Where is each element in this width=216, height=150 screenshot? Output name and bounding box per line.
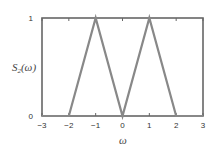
x-tick-label: 0	[120, 121, 125, 130]
plot-frame	[42, 18, 203, 116]
x-tick-label: 2	[174, 121, 179, 130]
x-tick-label: 1	[147, 121, 152, 130]
x-tick-label: −3	[37, 121, 47, 130]
x-tick-label: −1	[91, 121, 101, 130]
series	[42, 18, 203, 116]
x-tick-label: −2	[64, 121, 74, 130]
chart: −3−2−10123 01 ω S2(ω)	[0, 0, 216, 150]
y-axis-label: S2(ω)	[12, 61, 36, 75]
plot-frame-rect	[42, 18, 203, 116]
series-line	[42, 18, 203, 116]
x-tick-label: 3	[201, 121, 206, 130]
y-tick-label: 1	[29, 14, 34, 23]
x-tick-labels: −3−2−10123	[37, 121, 205, 130]
x-axis-label: ω	[119, 134, 127, 146]
y-axis-label-arg: (ω)	[21, 61, 36, 74]
tick-marks	[42, 18, 203, 116]
y-tick-label: 0	[29, 112, 34, 121]
